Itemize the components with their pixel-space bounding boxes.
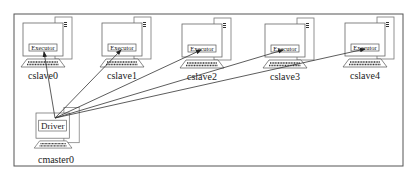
computer-icon	[21, 17, 72, 67]
host-label: cslave1	[107, 70, 137, 81]
host-label: cslave2	[187, 71, 217, 82]
executor-label: Executor	[31, 44, 55, 51]
host-label-cmaster0: cmaster0	[38, 154, 74, 165]
node-cslave4: Executor cslave4	[343, 17, 394, 81]
connection-cslave3	[55, 50, 283, 118]
executor-label: Executor	[273, 45, 297, 52]
executor-label: Executor	[353, 44, 377, 51]
node-cslave3: Executor cslave3	[263, 18, 314, 82]
host-label: cslave3	[270, 71, 300, 82]
host-label: cslave4	[350, 70, 380, 81]
cluster-diagram: Executor cslave0 Executor cslave1 Execut…	[0, 0, 411, 178]
node-cmaster0: Driver	[34, 108, 79, 149]
computer-icon	[343, 17, 394, 67]
computer-icon	[180, 18, 231, 68]
node-cslave1: Executor cslave1	[100, 17, 151, 81]
host-label: cslave0	[28, 70, 58, 81]
computer-icon	[263, 18, 314, 68]
computer-icon	[100, 17, 151, 67]
executor-label: Executor	[110, 44, 134, 51]
node-cslave0: Executor cslave0	[21, 17, 72, 81]
connection-cslave4	[55, 49, 365, 118]
node-cslave2: Executor cslave2	[180, 18, 231, 82]
driver-label: Driver	[41, 121, 65, 131]
executor-label: Executor	[190, 45, 214, 52]
